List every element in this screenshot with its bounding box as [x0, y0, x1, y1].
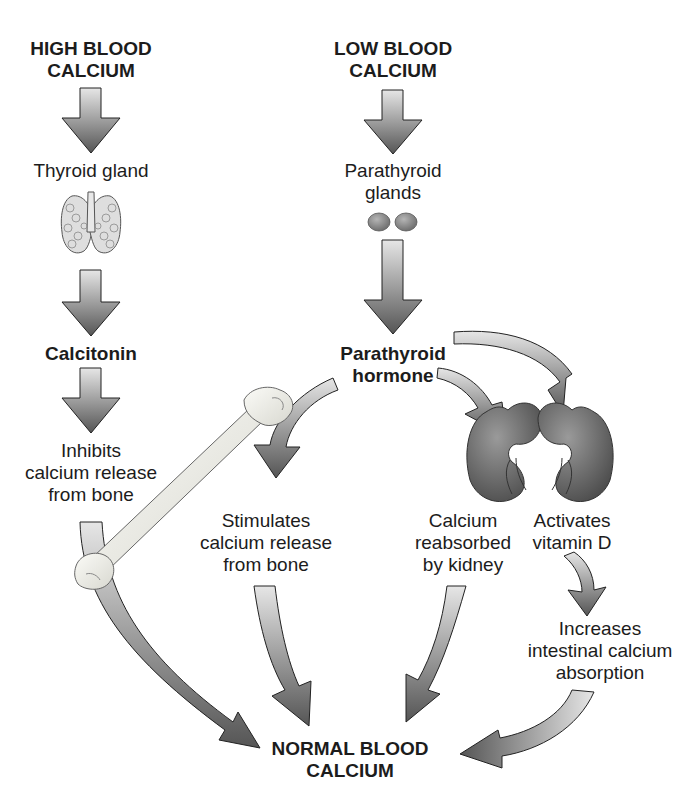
arrow-vitamin-d-to-intestinal — [564, 552, 606, 616]
calcitonin-label: Calcitonin — [45, 343, 137, 365]
low-blood-calcium-title: LOW BLOOD CALCIUM — [334, 38, 452, 82]
arrow-calcitonin-to-inhibits — [62, 368, 120, 433]
parathyroid-glands-icon — [368, 213, 417, 231]
arrow-low-to-parathyroid — [364, 90, 422, 154]
arrow-pth-to-vitamin-d — [454, 331, 572, 414]
arrow-parathyroid-to-pth — [364, 240, 422, 334]
normal-blood-calcium-label: NORMAL BLOOD CALCIUM — [272, 738, 429, 782]
stimulates-calcium-release-label: Stimulates calcium release from bone — [200, 510, 332, 576]
parathyroid-glands-label: Parathyroid glands — [344, 160, 441, 204]
increases-intestinal-absorption-label: Increases intestinal calcium absorption — [528, 618, 673, 684]
arrow-thyroid-to-calcitonin — [62, 270, 120, 336]
calcium-reabsorbed-label: Calcium reabsorbed by kidney — [415, 510, 511, 576]
arrow-intestinal-to-normal — [460, 690, 594, 768]
activates-vitamin-d-label: Activates vitamin D — [532, 510, 611, 554]
kidney-icon — [538, 403, 613, 502]
thyroid-gland-label: Thyroid gland — [33, 160, 148, 182]
kidney-icon — [467, 403, 542, 502]
parathyroid-hormone-label: Parathyroid hormone — [340, 343, 446, 387]
inhibits-calcium-release-label: Inhibits calcium release from bone — [25, 440, 157, 506]
arrow-high-to-thyroid — [62, 88, 120, 153]
thyroid-gland-icon — [61, 192, 120, 253]
arrow-kidney-to-normal — [406, 586, 466, 722]
arrow-stimulates-to-normal — [254, 586, 311, 726]
high-blood-calcium-title: HIGH BLOOD CALCIUM — [30, 38, 151, 82]
